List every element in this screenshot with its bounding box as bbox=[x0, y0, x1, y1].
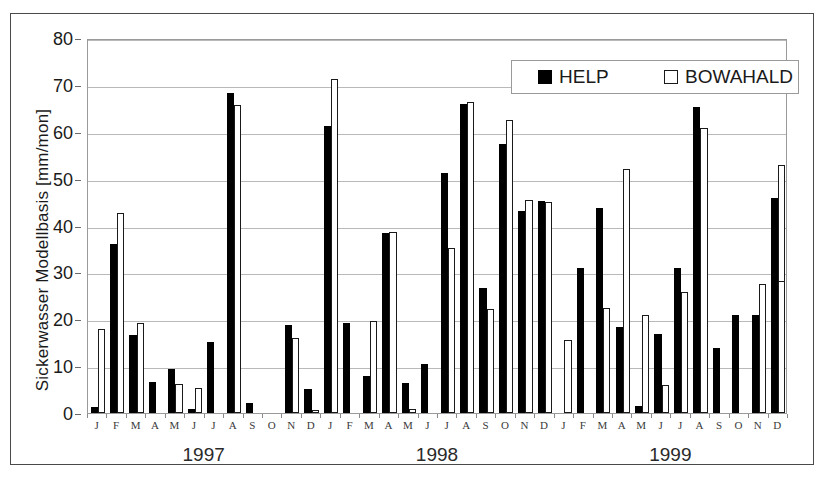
x-tick-mark bbox=[204, 414, 205, 418]
x-tick-mark bbox=[359, 414, 360, 418]
bar-group bbox=[613, 40, 632, 413]
y-tick-mark bbox=[75, 39, 81, 40]
bar-bowahald bbox=[642, 315, 649, 413]
bar-help bbox=[129, 335, 136, 413]
bar-group bbox=[321, 40, 340, 413]
bar-help bbox=[460, 104, 467, 413]
x-month-label: N bbox=[754, 419, 762, 431]
bar-bowahald bbox=[331, 79, 338, 413]
y-tick-mark bbox=[75, 133, 81, 134]
bar-group bbox=[205, 40, 224, 413]
legend-label-help: HELP bbox=[559, 66, 609, 88]
bar-help bbox=[188, 409, 195, 413]
x-tick-mark bbox=[456, 414, 457, 418]
bar-help bbox=[227, 93, 234, 413]
bar-help bbox=[635, 406, 642, 414]
y-tick-mark bbox=[75, 273, 81, 274]
x-month-label: J bbox=[211, 419, 215, 431]
bar-help bbox=[596, 208, 603, 413]
bar-bowahald bbox=[117, 213, 124, 413]
x-month-label: N bbox=[521, 419, 529, 431]
y-tick-label: 80 bbox=[53, 30, 73, 48]
bar-bowahald bbox=[312, 410, 319, 413]
bar-group bbox=[341, 40, 360, 413]
bar-bowahald bbox=[409, 409, 416, 413]
bar-bowahald bbox=[195, 388, 202, 413]
bar-bowahald bbox=[662, 385, 669, 413]
bar-help bbox=[402, 383, 409, 413]
bar-group bbox=[263, 40, 282, 413]
bar-bowahald bbox=[759, 284, 766, 413]
x-tick-mark bbox=[165, 414, 166, 418]
x-month-label: O bbox=[501, 419, 509, 431]
bar-help bbox=[479, 288, 486, 413]
legend-entry-help: HELP bbox=[538, 61, 609, 93]
bar-help bbox=[654, 334, 661, 413]
x-tick-mark bbox=[145, 414, 146, 418]
x-month-label: A bbox=[229, 419, 237, 431]
x-year-label: 1999 bbox=[649, 444, 691, 466]
x-tick-mark bbox=[593, 414, 594, 418]
x-month-label: D bbox=[773, 419, 781, 431]
x-month-label: D bbox=[540, 419, 548, 431]
bar-help bbox=[324, 126, 331, 413]
bar-group bbox=[185, 40, 204, 413]
bar-bowahald bbox=[137, 323, 144, 413]
x-month-label: A bbox=[696, 419, 704, 431]
x-month-label: J bbox=[561, 419, 565, 431]
bar-bowahald bbox=[487, 309, 494, 413]
x-month-label: F bbox=[113, 419, 119, 431]
x-tick-mark bbox=[670, 414, 671, 418]
x-month-label: M bbox=[597, 419, 607, 431]
bar-group bbox=[769, 40, 788, 413]
bar-help bbox=[752, 315, 759, 413]
x-tick-mark bbox=[126, 414, 127, 418]
bar-help bbox=[538, 201, 545, 413]
legend-swatch-bowahald-icon bbox=[664, 70, 678, 84]
bar-bowahald bbox=[623, 169, 630, 413]
x-year-label: 1997 bbox=[183, 444, 225, 466]
bar-bowahald bbox=[778, 281, 785, 413]
bar-group bbox=[146, 40, 165, 413]
x-tick-mark bbox=[184, 414, 185, 418]
bar-group bbox=[574, 40, 593, 413]
y-tick-label: 30 bbox=[53, 264, 73, 282]
x-tick-mark bbox=[398, 414, 399, 418]
bar-group bbox=[652, 40, 671, 413]
bar-help bbox=[91, 407, 98, 413]
bar-group bbox=[438, 40, 457, 413]
y-tick-label: 50 bbox=[53, 171, 73, 189]
bar-help bbox=[246, 403, 253, 413]
bar-help bbox=[363, 376, 370, 413]
x-month-label: M bbox=[131, 419, 141, 431]
bar-group bbox=[166, 40, 185, 413]
bar-group bbox=[710, 40, 729, 413]
x-month-label: J bbox=[425, 419, 429, 431]
bar-bowahald bbox=[292, 338, 299, 413]
legend-entry-bowahald: BOWAHALD bbox=[664, 61, 793, 93]
bar-help bbox=[343, 323, 350, 413]
bar-group bbox=[282, 40, 301, 413]
x-tick-mark bbox=[515, 414, 516, 418]
x-tick-mark bbox=[748, 414, 749, 418]
x-month-label: O bbox=[268, 419, 276, 431]
bar-group bbox=[496, 40, 515, 413]
x-axis: JFMAMJJASONDJFMAMJJASONDJFMAMJJASOND1997… bbox=[87, 414, 787, 440]
x-month-label: M bbox=[636, 419, 646, 431]
bar-help bbox=[693, 107, 700, 413]
bar-group bbox=[457, 40, 476, 413]
x-month-label: J bbox=[328, 419, 332, 431]
bar-bowahald bbox=[98, 329, 105, 413]
x-month-label: O bbox=[734, 419, 742, 431]
x-tick-mark bbox=[709, 414, 710, 418]
bar-help bbox=[168, 369, 175, 413]
x-tick-mark bbox=[418, 414, 419, 418]
bar-bowahald bbox=[564, 340, 571, 413]
chart-figure: Sickerwasser Modellbasis [mm/mon] 010203… bbox=[10, 13, 814, 465]
bars-container bbox=[88, 40, 786, 413]
x-month-label: A bbox=[151, 419, 159, 431]
x-tick-mark bbox=[787, 414, 788, 418]
bar-group bbox=[419, 40, 438, 413]
x-tick-mark bbox=[320, 414, 321, 418]
bar-bowahald bbox=[681, 292, 688, 413]
